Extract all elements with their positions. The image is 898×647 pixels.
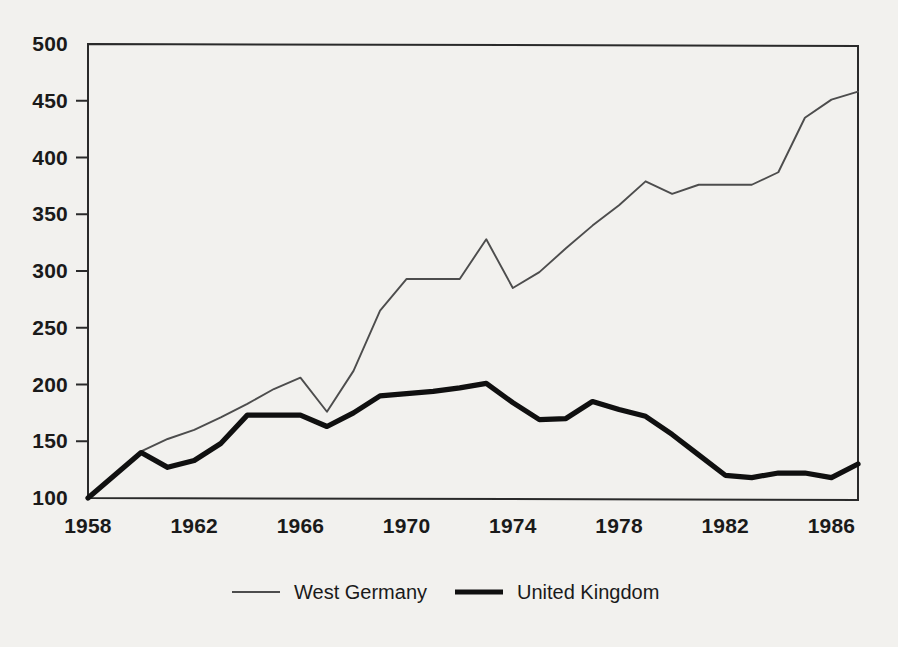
series-line-united-kingdom xyxy=(88,383,858,498)
x-tick-label: 1982 xyxy=(701,514,749,537)
series-line-west-germany xyxy=(88,92,858,498)
chart-canvas: 100150200250300350400450500 195819621966… xyxy=(0,0,898,647)
y-tick-label: 350 xyxy=(32,202,68,225)
y-axis-ticks: 100150200250300350400450500 xyxy=(32,32,88,509)
y-tick-label: 100 xyxy=(32,486,68,509)
legend-label-united-kingdom: United Kingdom xyxy=(517,581,659,603)
x-tick-label: 1966 xyxy=(277,514,325,537)
y-tick-label: 250 xyxy=(32,316,68,339)
y-tick-label: 450 xyxy=(32,89,68,112)
y-tick-label: 500 xyxy=(32,32,68,55)
x-axis-ticks: 19581962196619701974197819821986 xyxy=(64,514,855,537)
legend-label-west-germany: West Germany xyxy=(294,581,427,603)
line-chart: 100150200250300350400450500 195819621966… xyxy=(0,0,898,647)
chart-legend: West GermanyUnited Kingdom xyxy=(232,581,659,603)
y-tick-label: 400 xyxy=(32,146,68,169)
y-tick-label: 300 xyxy=(32,259,68,282)
x-tick-label: 1970 xyxy=(383,514,431,537)
axis-frame xyxy=(88,44,858,500)
y-tick-label: 200 xyxy=(32,373,68,396)
x-tick-label: 1958 xyxy=(64,514,112,537)
plot-frame xyxy=(88,44,858,500)
data-series-group xyxy=(88,92,858,498)
x-tick-label: 1986 xyxy=(808,514,856,537)
x-tick-label: 1962 xyxy=(170,514,218,537)
y-tick-label: 150 xyxy=(32,429,68,452)
x-tick-label: 1974 xyxy=(489,514,537,537)
x-tick-label: 1978 xyxy=(595,514,643,537)
